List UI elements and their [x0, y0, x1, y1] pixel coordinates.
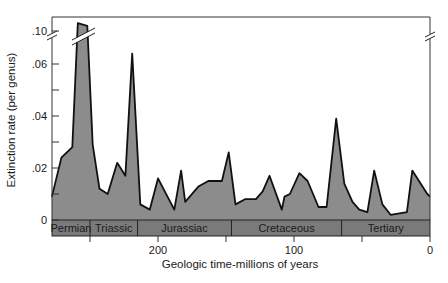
plot-area: [47, 17, 435, 220]
x-tick-label: 0: [427, 244, 433, 256]
y-tick-label: .10: [32, 25, 47, 37]
x-tick-label: 100: [285, 244, 303, 256]
x-axis-title: Geologic time-millions of years: [162, 258, 319, 270]
y-tick-label: 0: [41, 214, 47, 226]
period-label-tertiary: Tertiary: [368, 222, 405, 234]
x-tick-label: 200: [149, 244, 167, 256]
x-axis: 2001000: [90, 236, 433, 256]
y-axis-title: Extinction rate (per genus): [5, 52, 17, 187]
y-tick-label: .06: [32, 58, 47, 70]
extinction-rate-chart: PermianTriassicJurassiacCretaceousTertia…: [0, 0, 448, 283]
period-band: PermianTriassicJurassiacCretaceousTertia…: [51, 220, 430, 236]
period-label-triassic: Triassic: [95, 222, 133, 234]
y-tick-label: .04: [32, 110, 47, 122]
period-label-jurassiac: Jurassiac: [161, 222, 208, 234]
period-label-permian: Permian: [51, 222, 92, 234]
period-label-cretaceous: Cretaceous: [258, 222, 315, 234]
y-tick-label: .02: [32, 162, 47, 174]
